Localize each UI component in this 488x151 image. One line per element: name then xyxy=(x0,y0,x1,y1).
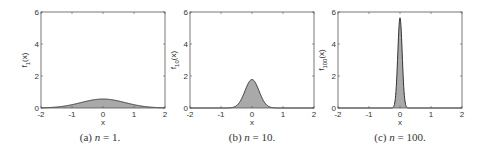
x-tick-label: 2 xyxy=(460,110,465,119)
plot-c: -2-10120246xf100(x) xyxy=(0,0,488,130)
y-tick-label: 6 xyxy=(332,8,337,17)
x-tick-label: 1 xyxy=(429,110,434,119)
x-tick-label: -1 xyxy=(365,110,373,119)
chart-panel-c: -2-10120246xf100(x) (c) n = 100. xyxy=(0,0,488,151)
y-tick-label: 4 xyxy=(332,40,337,49)
y-axis-label: f100(x) xyxy=(317,49,328,71)
density-area xyxy=(338,18,462,108)
caption-var: n xyxy=(389,131,395,143)
caption-c: (c) n = 100. xyxy=(374,131,425,143)
caption-prefix: (c) xyxy=(374,131,386,143)
caption-eq: = 100. xyxy=(398,131,426,143)
y-tick-label: 2 xyxy=(332,72,337,81)
x-axis-label: x xyxy=(398,118,402,127)
y-tick-label: 0 xyxy=(332,104,337,113)
